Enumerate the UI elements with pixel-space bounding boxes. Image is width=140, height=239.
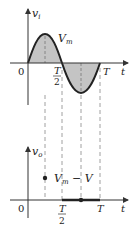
peak-label: Vm bbox=[58, 32, 73, 46]
top-t-label: t bbox=[121, 66, 126, 77]
output-zero-dot bbox=[79, 198, 83, 202]
waveform-diagram: vi Vm 0 T 2 T t vo Vm − V 0 T 2 T t bbox=[0, 0, 140, 239]
bottom-origin-label: 0 bbox=[18, 203, 24, 214]
top-y-label: vi bbox=[32, 7, 40, 21]
output-waveform-graph: vo Vm − V 0 T 2 T t bbox=[10, 145, 128, 226]
level-label: Vm − V bbox=[54, 172, 94, 186]
input-waveform-graph: vi Vm 0 T 2 T t bbox=[10, 7, 128, 105]
bottom-half-period-num: T bbox=[59, 203, 67, 214]
bottom-y-label: vo bbox=[32, 145, 42, 159]
bottom-period-label: T bbox=[97, 203, 105, 214]
output-peak-dot bbox=[43, 176, 47, 180]
bottom-t-label: t bbox=[121, 203, 126, 214]
bottom-half-period-den: 2 bbox=[59, 216, 65, 226]
top-origin-label: 0 bbox=[18, 66, 24, 77]
top-half-period-den: 2 bbox=[54, 77, 60, 87]
top-half-period-num: T bbox=[54, 65, 62, 76]
top-period-label: T bbox=[103, 66, 111, 77]
